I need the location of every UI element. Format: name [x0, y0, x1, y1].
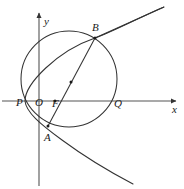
y-axis-label: y	[44, 16, 49, 27]
point-label-q: Q	[114, 98, 122, 109]
x-axis-label: x	[172, 104, 177, 115]
point-label-a: A	[44, 132, 51, 143]
geometry-figure: POFQBA x y	[0, 0, 184, 189]
point-dot-b	[94, 37, 97, 40]
point-label-b: B	[92, 22, 99, 33]
point-label-p: P	[16, 97, 23, 108]
point-dot-m	[70, 81, 73, 84]
point-label-f: F	[52, 98, 59, 109]
point-dot-a	[47, 125, 50, 128]
chord-extension-line	[95, 7, 164, 38]
parabola-curve	[25, 7, 164, 184]
point-label-o: O	[35, 97, 43, 108]
